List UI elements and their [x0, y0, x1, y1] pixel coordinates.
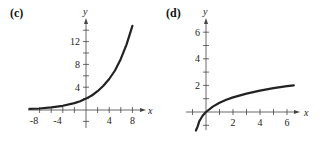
x-axis-label: x: [303, 107, 309, 118]
figure: (c) x y -8 -4: [0, 0, 322, 142]
x-tick-label: 4: [107, 115, 112, 126]
y-tick-label: 8: [75, 59, 80, 70]
x-axis-label: x: [147, 105, 153, 116]
x-tick-label: 2: [231, 117, 236, 128]
y-axis-arrow-icon: [84, 18, 88, 24]
y-axis-label: y: [202, 6, 208, 17]
y-axis-label: y: [82, 6, 88, 17]
x-tick-label: 4: [258, 117, 263, 128]
panel-c: (c) x y -8 -4: [10, 6, 153, 128]
y-tick-label: 6: [195, 27, 200, 38]
y-tick-label: 2: [195, 80, 200, 91]
y-tick-label: 12: [70, 36, 80, 47]
y-axis-arrow-icon: [204, 18, 208, 24]
x-tick-label: 8: [130, 115, 135, 126]
y-tick-label: 4: [195, 53, 200, 64]
curve-d: [196, 85, 294, 130]
x-axis-arrow-icon: [140, 108, 146, 112]
x-axis-arrow-icon: [294, 110, 300, 114]
panel-d-label: (d): [166, 6, 181, 20]
y-tick-label: 4: [75, 82, 80, 93]
x-tick-label: 6: [285, 117, 290, 128]
panel-c-label: (c): [10, 6, 23, 20]
panel-d: (d) x y 2 4 6 2 4 6: [166, 6, 309, 131]
x-tick-label: -8: [30, 115, 38, 126]
x-tick-label: -4: [53, 115, 61, 126]
curve-c: [29, 26, 132, 109]
